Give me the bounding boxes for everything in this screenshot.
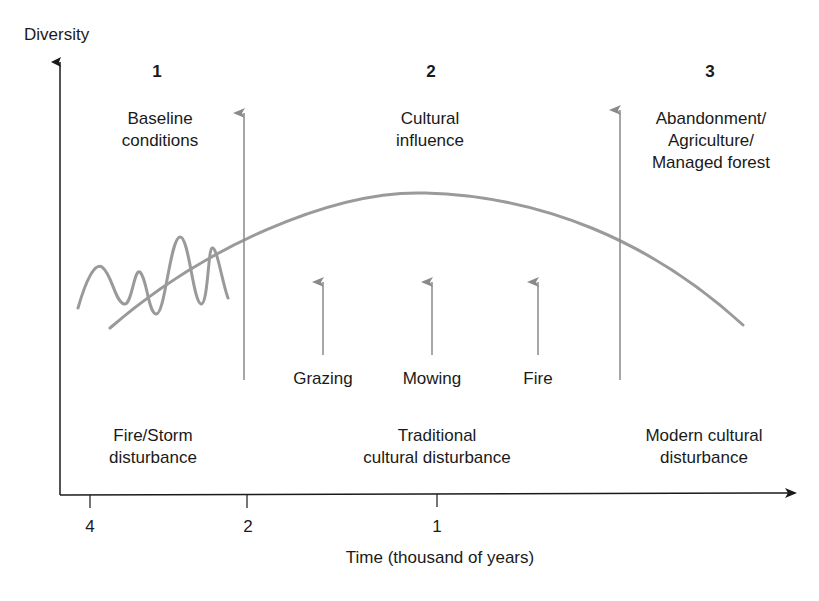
x-axis [60, 493, 795, 495]
phase-title-2-line-1: Cultural [370, 108, 490, 130]
driver-label-grazing: Grazing [283, 368, 363, 390]
phase-title-2: Cultural influence [370, 108, 490, 152]
x-tick-label-4: 4 [75, 517, 105, 537]
phase-number-1: 1 [137, 62, 177, 82]
disturbance-label-1: Fire/Storm disturbance [88, 425, 218, 469]
phase-title-1-line-1: Baseline [100, 108, 220, 130]
disturbance-label-2-line-2: cultural disturbance [347, 447, 527, 469]
phase-title-3: Abandonment/ Agriculture/ Managed forest [636, 108, 786, 174]
diagram-canvas [0, 0, 819, 601]
x-axis-label: Time (thousand of years) [330, 547, 550, 569]
disturbance-label-2-line-1: Traditional [347, 425, 527, 447]
y-axis-label: Diversity [24, 24, 89, 46]
driver-label-mowing: Mowing [392, 368, 472, 390]
phase-title-1: Baseline conditions [100, 108, 220, 152]
disturbance-label-3: Modern cultural disturbance [629, 425, 779, 469]
disturbance-label-3-line-1: Modern cultural [629, 425, 779, 447]
driver-label-fire: Fire [498, 368, 578, 390]
disturbance-label-3-line-2: disturbance [629, 447, 779, 469]
baseline-fluctuation [78, 237, 228, 314]
phase-title-2-line-2: influence [370, 130, 490, 152]
phase-title-3-line-2: Agriculture/ [636, 130, 786, 152]
phase-title-3-line-3: Managed forest [636, 152, 786, 174]
disturbance-label-1-line-1: Fire/Storm [88, 425, 218, 447]
phase-title-1-line-2: conditions [100, 130, 220, 152]
disturbance-label-1-line-2: disturbance [88, 447, 218, 469]
disturbance-label-2: Traditional cultural disturbance [347, 425, 527, 469]
diversity-curve [110, 193, 743, 328]
phase-title-3-line-1: Abandonment/ [636, 108, 786, 130]
x-tick-label-2: 2 [233, 517, 263, 537]
phase-number-2: 2 [411, 62, 451, 82]
x-tick-label-1: 1 [422, 517, 452, 537]
phase-number-3: 3 [690, 62, 730, 82]
